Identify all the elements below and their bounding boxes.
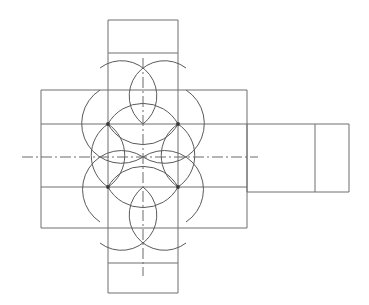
arc-lower-left-sweep [100,187,157,250]
node-top-left [106,122,110,126]
node-bottom-right [176,185,180,189]
right-side-view-band [247,124,349,192]
lens-left-inner-arc [91,124,108,187]
arc-upper-left-sweep [100,61,157,124]
node-bottom-left [106,185,110,189]
lens-right-outer-arc [161,124,178,187]
lens-right-inner-arc [178,124,195,187]
arc-upper-right-sweep [129,61,186,124]
technical-drawing-canvas [0,0,369,305]
drawing-svg [0,0,369,305]
node-top-right [176,122,180,126]
arc-lower-right-sweep [129,187,186,250]
lens-left-outer-arc [108,124,125,187]
